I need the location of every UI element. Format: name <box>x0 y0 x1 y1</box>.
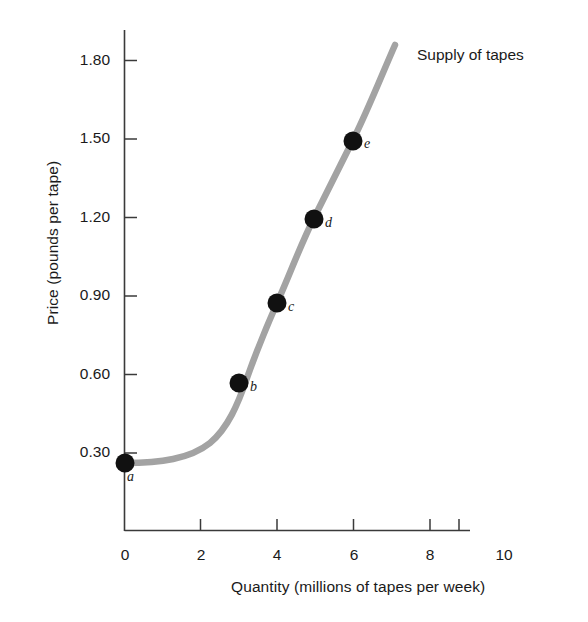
y-tick-label-1-20: 1.20 <box>62 208 110 226</box>
data-point-markers <box>116 132 363 473</box>
x-tick-label-2: 2 <box>186 546 216 564</box>
point-label-e: e <box>364 136 370 152</box>
y-axis-ticks <box>125 61 138 454</box>
point-label-b: b <box>250 379 257 395</box>
y-tick-label-1-50: 1.50 <box>62 129 110 147</box>
x-axis-ticks <box>201 519 460 531</box>
y-axis-title: Price (pounds per tape) <box>44 161 62 325</box>
x-tick-label-0: 0 <box>110 546 140 564</box>
point-label-d: d <box>325 215 332 231</box>
x-axis-title: Quantity (millions of tapes per week) <box>231 578 485 596</box>
y-tick-label-1-80: 1.80 <box>62 51 110 69</box>
data-point-d <box>305 210 324 229</box>
x-tick-label-4: 4 <box>262 546 292 564</box>
data-point-e <box>344 132 363 151</box>
point-label-a: a <box>127 469 134 485</box>
supply-curve-label: Supply of tapes <box>417 46 524 64</box>
y-tick-label-0-60: 0.60 <box>62 365 110 383</box>
x-tick-label-6: 6 <box>339 546 369 564</box>
x-tick-label-10: 10 <box>489 546 519 564</box>
supply-curve-line <box>125 45 395 463</box>
data-point-c <box>268 294 287 313</box>
y-tick-label-0-30: 0.30 <box>62 443 110 461</box>
x-tick-label-8: 8 <box>415 546 445 564</box>
supply-curve-figure: Price (pounds per tape) Quantity (millio… <box>0 0 588 622</box>
data-point-b <box>230 374 249 393</box>
y-tick-label-0-90: 0.90 <box>62 286 110 304</box>
point-label-c: c <box>288 299 294 315</box>
